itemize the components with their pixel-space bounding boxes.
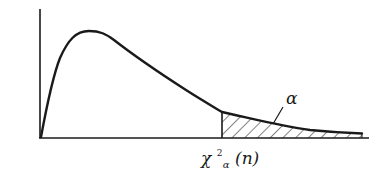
critical-value-label: χ 2 α (n) (200, 140, 259, 172)
alpha-leader-line (273, 107, 283, 124)
density-curve (41, 31, 362, 137)
diagram-canvas: α χ 2 α (n) (0, 0, 378, 185)
chi-argument: (n) (235, 148, 259, 168)
alpha-label: α (286, 88, 298, 108)
chi-square-diagram: α χ 2 α (n) (0, 0, 378, 185)
chi-superscript: 2 (217, 148, 223, 158)
chi-subscript: α (223, 159, 230, 170)
chi-symbol: χ (200, 148, 213, 168)
